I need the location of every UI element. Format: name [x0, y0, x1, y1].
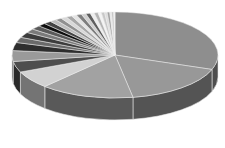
- pie-top-slices: [12, 12, 218, 98]
- pie-chart-3d: [0, 0, 225, 148]
